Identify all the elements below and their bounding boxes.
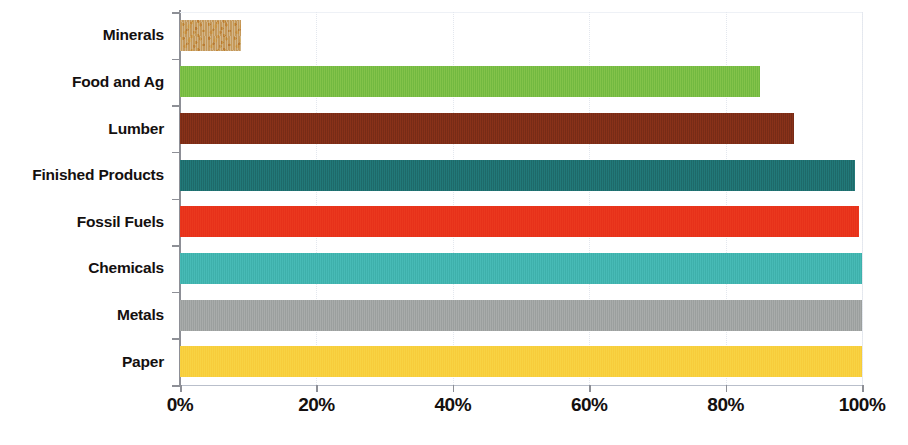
bar-chart: MineralsFood and AgLumberFinished Produc… [0,0,908,445]
y-axis-tick [172,105,179,107]
x-axis-tick [862,385,864,392]
x-axis-tick [453,385,455,392]
category-label: Paper [0,353,172,371]
x-axis-tick-label: 40% [413,394,493,416]
y-axis-tick [172,12,179,14]
gridline [862,12,864,385]
x-axis-tick-label: 0% [140,394,220,416]
x-axis-tick [589,385,591,392]
x-axis-tick [726,385,728,392]
bar [180,300,862,331]
category-label: Finished Products [0,166,172,184]
bar [180,160,855,191]
bar [180,20,241,51]
y-axis-tick [172,292,179,294]
bar [180,206,859,237]
bar [180,346,862,377]
bar [180,66,760,97]
y-axis-tick [172,152,179,154]
category-label: Fossil Fuels [0,213,172,231]
x-axis-tick-label: 60% [549,394,629,416]
y-axis-tick [172,59,179,61]
category-label: Minerals [0,26,172,44]
x-axis-tick-label: 80% [686,394,766,416]
bar [180,253,862,284]
category-label: Metals [0,306,172,324]
x-axis-tick-label: 100% [822,394,902,416]
y-axis-tick [172,199,179,201]
y-axis-tick [172,245,179,247]
x-axis-tick [316,385,318,392]
x-axis-line [180,385,863,386]
plot-border-top [180,12,863,13]
y-axis-tick [172,338,179,340]
category-label: Food and Ag [0,73,172,91]
bar [180,113,794,144]
y-axis-tick [172,385,179,387]
x-axis-tick [180,385,182,392]
category-label: Lumber [0,120,172,138]
x-axis-tick-label: 20% [276,394,356,416]
plot-area [180,12,862,385]
category-label: Chemicals [0,259,172,277]
